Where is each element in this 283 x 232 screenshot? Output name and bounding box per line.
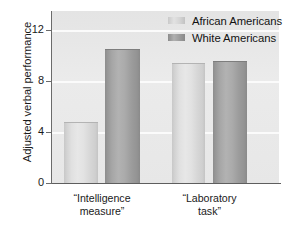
y-tick-label-0: 0 [2, 176, 44, 188]
legend-label: White Americans [192, 32, 276, 44]
y-tick-mark-0 [46, 183, 52, 184]
legend: African AmericansWhite Americans [168, 13, 282, 47]
category-label-line: “Intelligence [47, 192, 157, 205]
bar-african-americans-group-1 [64, 122, 98, 183]
legend-swatch-icon [168, 34, 185, 41]
category-label-line: task” [155, 205, 265, 218]
category-label-line: measure” [47, 205, 157, 218]
y-axis-line [51, 11, 52, 184]
bar-chart-figure: Adjusted verbal performance 04812 Africa… [0, 0, 283, 232]
y-tick-mark-12 [46, 30, 52, 31]
y-tick-label-8: 8 [2, 74, 44, 86]
category-label-2: “Laboratorytask” [155, 192, 265, 217]
y-tick-label-12: 12 [2, 23, 44, 35]
legend-item-african-americans: African Americans [168, 13, 282, 28]
y-tick-label-4: 4 [2, 125, 44, 137]
legend-label: African Americans [192, 15, 282, 27]
legend-item-white-americans: White Americans [168, 30, 282, 45]
bar-white-americans-group-2 [213, 61, 247, 183]
x-axis-line [51, 183, 281, 184]
y-tick-mark-8 [46, 81, 52, 82]
legend-swatch-icon [168, 17, 185, 24]
bar-white-americans-group-1 [105, 49, 140, 183]
category-label-line: “Laboratory [155, 192, 265, 205]
bar-african-americans-group-2 [172, 63, 205, 183]
y-tick-mark-4 [46, 132, 52, 133]
category-label-1: “Intelligencemeasure” [47, 192, 157, 217]
